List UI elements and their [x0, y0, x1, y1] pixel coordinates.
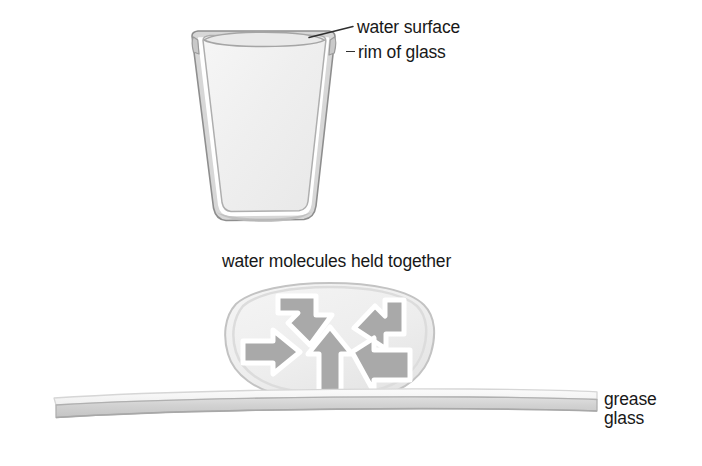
substrate-group — [54, 389, 597, 418]
glass-of-water-group — [192, 27, 353, 223]
illustration-canvas — [0, 0, 702, 466]
illustration-figure: water surface rim of glass water molecul… — [0, 0, 702, 466]
water-surface-line — [204, 32, 325, 46]
label-glass: glass — [604, 409, 644, 429]
droplet-group — [225, 283, 434, 399]
water-body — [203, 36, 326, 212]
label-water-surface: water surface — [357, 18, 460, 38]
glass-left-rim-edge — [192, 37, 199, 54]
label-water-molecules-held-together: water molecules held together — [222, 252, 451, 272]
label-rim-of-glass: rim of glass — [346, 43, 446, 63]
glass-right-rim-edge — [329, 37, 336, 55]
rim-of-glass-dash-icon — [346, 51, 355, 52]
label-rim-of-glass-text: rim of glass — [358, 42, 446, 62]
label-grease: grease — [604, 390, 657, 410]
